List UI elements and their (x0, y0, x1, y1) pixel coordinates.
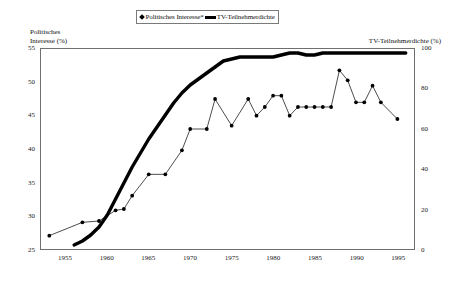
plot-area (40, 48, 415, 250)
diamond-marker-icon (139, 14, 145, 20)
x-axis-tick: 1995 (383, 254, 413, 262)
left-axis-title-line1: Politisches (30, 28, 67, 37)
data-point (396, 117, 400, 121)
data-point (213, 97, 217, 101)
data-point (122, 207, 126, 211)
data-point (296, 105, 300, 109)
left-axis-title-line2: Interesse (%) (30, 37, 67, 46)
data-point (304, 105, 308, 109)
y-axis-left-tick: 40 (13, 145, 35, 153)
y-axis-right-tick: 20 (421, 206, 428, 214)
y-axis-right-tick: 80 (421, 84, 428, 92)
data-point (271, 94, 275, 98)
data-point (114, 208, 118, 212)
chart-legend: Politisches Interesse* TV-Teilnehmerdich… (136, 10, 279, 24)
y-axis-left-tick: 30 (13, 212, 35, 220)
data-point (180, 148, 184, 152)
chart-figure: Politisches Interesse* TV-Teilnehmerdich… (0, 0, 452, 288)
series-politisches-interesse (47, 68, 399, 237)
data-point (263, 105, 267, 109)
y-axis-right-tick: 40 (421, 165, 428, 173)
data-point (329, 105, 333, 109)
data-point (288, 114, 292, 118)
y-axis-left-tick: 45 (13, 111, 35, 119)
data-point (279, 94, 283, 98)
x-axis-tick: 1985 (300, 254, 330, 262)
data-point (205, 127, 209, 131)
legend-label-politisches-interesse: Politisches Interesse* (146, 13, 204, 21)
legend-label-tv-teilnehmerdichte: TV-Teilnehmerdichte (217, 13, 275, 21)
data-point (338, 68, 342, 72)
x-axis-tick: 1970 (175, 254, 205, 262)
x-axis-tick: 1980 (258, 254, 288, 262)
data-point (313, 105, 317, 109)
data-point (97, 219, 101, 223)
data-point (81, 220, 85, 224)
x-axis-tick: 1965 (133, 254, 163, 262)
data-point (130, 194, 134, 198)
data-point (379, 100, 383, 104)
data-point (255, 114, 259, 118)
y-axis-left-tick: 35 (13, 179, 35, 187)
y-axis-left-tick: 55 (13, 44, 35, 52)
plot-svg (41, 49, 414, 249)
x-axis-tick: 1955 (50, 254, 80, 262)
x-axis-tick: 1990 (342, 254, 372, 262)
x-axis-tick: 1960 (92, 254, 122, 262)
thick-line-marker-icon (205, 16, 216, 19)
data-point (188, 127, 192, 131)
y-axis-right-tick: 100 (421, 44, 432, 52)
left-axis-title: Politisches Interesse (%) (30, 28, 67, 45)
data-point (362, 100, 366, 104)
legend-entry-politisches-interesse: Politisches Interesse* (140, 11, 204, 23)
y-axis-left-tick: 50 (13, 78, 35, 86)
data-point (147, 172, 151, 176)
data-point (354, 100, 358, 104)
data-point (371, 84, 375, 88)
data-point (163, 172, 167, 176)
data-point (47, 234, 51, 238)
x-axis-tick: 1975 (217, 254, 247, 262)
series-tv-teilnehmerdichte (74, 53, 406, 245)
data-point (346, 78, 350, 82)
data-point (321, 105, 325, 109)
legend-entry-tv-teilnehmerdichte: TV-Teilnehmerdichte (204, 11, 275, 23)
y-axis-right-tick: 60 (421, 125, 428, 133)
y-axis-left-tick: 25 (13, 246, 35, 254)
data-point (246, 97, 250, 101)
data-point (230, 124, 234, 128)
y-axis-right-tick: 0 (421, 246, 425, 254)
